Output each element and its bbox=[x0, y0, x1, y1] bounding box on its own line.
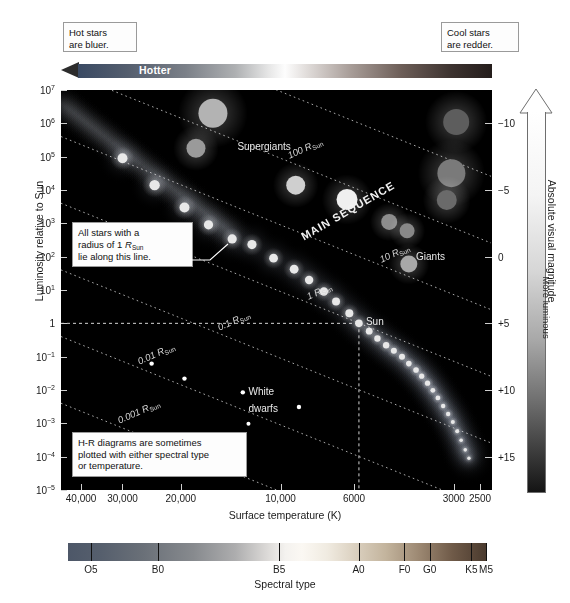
radius-callout-leader-line bbox=[188, 238, 248, 268]
spectral-label-K5: K5 bbox=[465, 564, 477, 575]
y-axis-tick-label: 104 bbox=[0, 184, 55, 196]
x-axis-tick-label: 3000 bbox=[443, 493, 465, 504]
y2-axis-tick-label: −10 bbox=[498, 118, 515, 129]
y-axis-tick-label: 10−1 bbox=[0, 350, 55, 362]
y-axis-tick-label: 10−5 bbox=[0, 484, 55, 496]
hotter-label: Hotter bbox=[139, 64, 171, 76]
spectral-type-bar bbox=[68, 543, 486, 561]
spectral-separator-M5 bbox=[486, 543, 487, 561]
radius-note-line1: All stars with a bbox=[78, 227, 187, 239]
y2-axis-tick-label: +10 bbox=[498, 385, 515, 396]
hot-stars-note-line1: Hot stars bbox=[69, 27, 131, 39]
x-axis-tick-label: 40,000 bbox=[66, 493, 97, 504]
hr-diagram-canvas bbox=[61, 90, 492, 490]
x-axis-tick-label: 10,000 bbox=[265, 493, 296, 504]
x-axis-tick-label: 20,000 bbox=[166, 493, 197, 504]
more-luminous-arrow-shaft: More luminous bbox=[527, 112, 546, 493]
radius-callout-note: All stars with a radius of 1 RSun lie al… bbox=[72, 222, 193, 267]
y-axis-tick-label: 1 bbox=[0, 318, 55, 329]
cool-stars-note-line2: are redder. bbox=[447, 39, 513, 51]
cool-stars-note-line1: Cool stars bbox=[447, 27, 513, 39]
y2-axis-tick-label: +15 bbox=[498, 451, 515, 462]
more-luminous-label: More luminous bbox=[541, 253, 552, 363]
radius-symbol: R bbox=[125, 239, 132, 250]
y-axis-title: Luminosity relative to Sun bbox=[33, 156, 45, 326]
spectral-label-O5: O5 bbox=[84, 564, 97, 575]
x-axis-tick-label: 2500 bbox=[469, 493, 491, 504]
hot-stars-note-line2: are bluer. bbox=[69, 39, 131, 51]
spectral-label-B5: B5 bbox=[273, 564, 285, 575]
x-axis-title: Surface temperature (K) bbox=[0, 509, 570, 521]
spectral-label-A0: A0 bbox=[352, 564, 364, 575]
y-axis-tick-label: 103 bbox=[0, 217, 55, 229]
y-axis-tick-label: 106 bbox=[0, 117, 55, 129]
spectral-type-callout-note: H-R diagrams are sometimes plotted with … bbox=[72, 432, 247, 477]
spectral-label-B0: B0 bbox=[152, 564, 164, 575]
hotter-arrow: Hotter bbox=[61, 62, 492, 79]
hr-diagram-plot: SupergiantsGiantsWhitedwarfsMAIN SEQUENC… bbox=[61, 90, 492, 490]
x-axis-tick-label: 30,000 bbox=[107, 493, 138, 504]
x-axis-tick-label: 6000 bbox=[343, 493, 365, 504]
more-luminous-arrow-head bbox=[519, 88, 553, 114]
radius-note-line2: radius of 1 RSun bbox=[78, 239, 187, 252]
y-axis-tick-label: 101 bbox=[0, 284, 55, 296]
more-luminous-arrow: More luminous bbox=[519, 88, 553, 492]
spectral-note-line1: H-R diagrams are sometimes bbox=[78, 437, 241, 449]
spectral-note-line2: plotted with either spectral type bbox=[78, 449, 241, 461]
y-axis-tick-label: 10−4 bbox=[0, 450, 55, 462]
y2-axis-tick-label: +5 bbox=[498, 318, 509, 329]
y-axis-tick-label: 102 bbox=[0, 250, 55, 262]
y2-axis-tick-label: 0 bbox=[498, 251, 504, 262]
y-axis-tick bbox=[61, 490, 67, 491]
spectral-axis-title: Spectral type bbox=[0, 578, 570, 590]
radius-note-line3: lie along this line. bbox=[78, 251, 187, 263]
hot-stars-note: Hot stars are bluer. bbox=[63, 22, 137, 52]
y-axis-tick-label: 10−2 bbox=[0, 384, 55, 396]
radius-note-prefix: radius of 1 bbox=[78, 239, 125, 250]
spectral-label-G0: G0 bbox=[423, 564, 436, 575]
y-axis-tick-label: 105 bbox=[0, 150, 55, 162]
hotter-arrow-head bbox=[61, 62, 79, 78]
y2-axis-tick-label: −5 bbox=[498, 185, 509, 196]
y-axis-tick-label: 107 bbox=[0, 84, 55, 96]
y-axis-tick-label: 10−3 bbox=[0, 417, 55, 429]
cool-stars-note: Cool stars are redder. bbox=[441, 22, 519, 52]
spectral-label-M5: M5 bbox=[479, 564, 493, 575]
spectral-note-line3: or temperature. bbox=[78, 460, 241, 472]
spectral-label-F0: F0 bbox=[399, 564, 411, 575]
radius-subscript: Sun bbox=[132, 244, 144, 251]
